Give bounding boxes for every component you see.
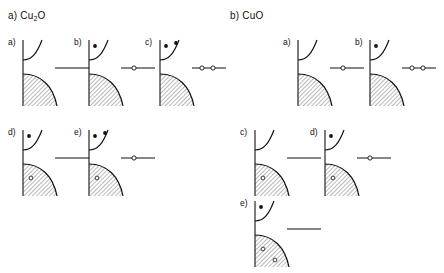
panel-label: d): [310, 127, 318, 137]
defect-level: [401, 62, 437, 74]
hole-circle: [331, 176, 335, 180]
conduction-band-curve: [325, 130, 344, 150]
panel-cu2o-e: e): [74, 128, 160, 198]
section-formula-post: O: [255, 10, 263, 21]
defect-hole-circle: [410, 66, 414, 70]
hole-circle: [261, 176, 265, 180]
electron-dot: [164, 44, 168, 48]
electron-dot: [329, 134, 333, 138]
section-formula-pre: Cu: [20, 10, 33, 21]
section-label: b): [230, 10, 242, 21]
electron-dot: [374, 44, 378, 48]
defect-hole-circle: [132, 66, 136, 70]
panel-cuo-e: e): [240, 199, 326, 269]
defect-level: [356, 152, 392, 164]
defect-hole-circle: [132, 156, 136, 160]
panel-cu2o-c: c): [145, 38, 231, 108]
conduction-band-curve: [255, 130, 274, 150]
defect-hole-circle: [211, 66, 215, 70]
defect-level-group: [120, 152, 156, 164]
panel-label: d): [8, 127, 16, 137]
hole-circle: [29, 176, 33, 180]
conduction-band-curve: [298, 40, 317, 60]
panel-cuo-d: d): [310, 128, 396, 198]
conduction-band-curve: [370, 40, 389, 60]
defect-level-group: [191, 62, 227, 74]
panel-label: b): [355, 37, 363, 47]
electron-dot: [27, 134, 31, 138]
panel-label: a): [8, 37, 16, 47]
panel-cuo-b: b): [355, 38, 441, 108]
electron-dot: [174, 41, 178, 45]
panel-label: e): [74, 127, 82, 137]
electron-dot: [259, 205, 263, 209]
panel-label: c): [145, 37, 152, 47]
section-title-cu2o: a) Cu2O: [8, 10, 46, 22]
electron-dot: [93, 134, 97, 138]
defect-level-group: [286, 223, 322, 235]
section-formula-post: O: [38, 10, 46, 21]
defect-level-group: [356, 152, 392, 164]
defect-level: [120, 152, 156, 164]
conduction-band-curve: [89, 40, 108, 60]
defect-hole-circle: [341, 66, 345, 70]
section-title-cuo: b) CuO: [230, 10, 263, 22]
panel-label: a): [283, 37, 291, 47]
panel-label: c): [240, 127, 247, 137]
defect-hole-circle: [368, 156, 372, 160]
conduction-band-curve: [23, 40, 42, 60]
panel-label: b): [74, 37, 82, 47]
hole-circle: [95, 176, 99, 180]
defect-level-group: [401, 62, 437, 74]
conduction-band-curve: [255, 201, 274, 221]
defect-hole-circle: [421, 66, 425, 70]
defect-level: [191, 62, 227, 74]
defect-hole-circle: [200, 66, 204, 70]
hole-circle: [273, 258, 277, 262]
defect-level: [286, 223, 322, 235]
section-formula-pre: Cu: [242, 10, 255, 21]
electron-dot: [93, 44, 97, 48]
section-label: a): [8, 10, 20, 21]
panel-label: e): [240, 198, 248, 208]
conduction-band-curve: [23, 130, 42, 150]
hole-circle: [261, 247, 265, 251]
electron-dot: [103, 131, 107, 135]
